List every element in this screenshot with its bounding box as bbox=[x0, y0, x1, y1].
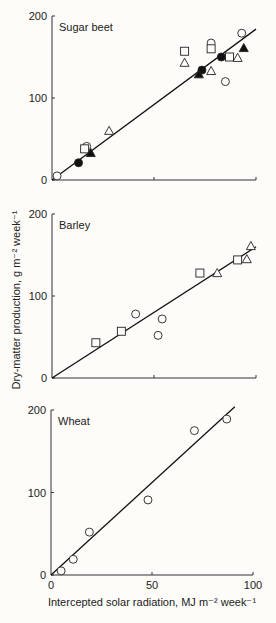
data-point-square-open bbox=[81, 145, 89, 153]
data-point-circle-open bbox=[238, 29, 246, 37]
panel-sugar-beet: 0100200Sugar beet bbox=[29, 10, 256, 186]
regression-line bbox=[52, 247, 256, 378]
data-point-triangle-open bbox=[246, 241, 255, 249]
y-tick-label: 200 bbox=[29, 10, 47, 22]
data-point-circle-filled bbox=[217, 53, 225, 61]
data-point-circle-open bbox=[144, 496, 152, 504]
y-axis-title: Dry-matter production, g m⁻² week⁻¹ bbox=[10, 210, 22, 389]
panel-wheat: 0100200050100Wheat bbox=[28, 404, 263, 591]
panel-barley: 0100200Barley bbox=[29, 208, 256, 384]
x-tick-label: 100 bbox=[244, 579, 262, 591]
data-point-square-open bbox=[117, 327, 125, 335]
data-point-circle-open bbox=[221, 78, 229, 86]
data-point-circle-open bbox=[69, 555, 77, 563]
regression-line bbox=[52, 29, 256, 180]
panel-title: Barley bbox=[59, 219, 91, 231]
data-point-square-open bbox=[207, 45, 215, 53]
y-tick-label: 200 bbox=[29, 208, 47, 220]
y-tick-label: 0 bbox=[40, 569, 46, 581]
data-point-triangle-open bbox=[105, 126, 114, 134]
data-point-circle-open bbox=[154, 331, 162, 339]
y-tick-label: 200 bbox=[28, 404, 46, 416]
x-tick-label: 0 bbox=[48, 579, 54, 591]
panel-title: Wheat bbox=[58, 415, 90, 427]
data-point-square-open bbox=[225, 53, 233, 61]
regression-line bbox=[51, 407, 235, 575]
x-axis-title: Intercepted solar radiation, MJ m⁻² week… bbox=[48, 596, 257, 608]
data-point-square-open bbox=[181, 47, 189, 55]
data-point-square-open bbox=[234, 256, 242, 264]
y-tick-label: 0 bbox=[41, 372, 47, 384]
data-point-triangle-filled bbox=[239, 43, 248, 51]
data-point-circle-filled bbox=[75, 159, 83, 167]
data-point-circle-open bbox=[57, 567, 65, 575]
y-tick-label: 0 bbox=[41, 174, 47, 186]
data-point-triangle-open bbox=[233, 53, 242, 61]
data-point-circle-open bbox=[132, 310, 140, 318]
data-point-square-open bbox=[92, 339, 100, 347]
y-tick-label: 100 bbox=[28, 487, 46, 499]
figure: 0100200Sugar beet0100200Barley0100200050… bbox=[0, 0, 276, 623]
data-point-circle-open bbox=[85, 528, 93, 536]
data-point-triangle-open bbox=[242, 255, 251, 263]
data-point-circle-open bbox=[158, 315, 166, 323]
data-point-square-open bbox=[196, 269, 204, 277]
data-point-circle-open bbox=[223, 415, 231, 423]
data-point-triangle-open bbox=[207, 66, 216, 74]
data-point-triangle-open bbox=[180, 58, 189, 66]
data-point-circle-open bbox=[190, 427, 198, 435]
y-tick-label: 100 bbox=[29, 290, 47, 302]
data-point-circle-open bbox=[53, 172, 61, 180]
y-tick-label: 100 bbox=[29, 92, 47, 104]
x-tick-label: 50 bbox=[146, 579, 158, 591]
panel-title: Sugar beet bbox=[59, 21, 113, 33]
